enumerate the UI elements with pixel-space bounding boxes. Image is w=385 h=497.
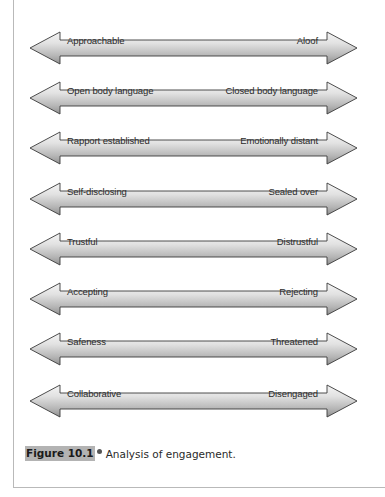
- left-label-safeness: Safeness: [67, 336, 106, 347]
- right-label-distrustful: Distrustful: [277, 236, 318, 247]
- right-label-rejecting: Rejecting: [279, 286, 318, 297]
- bullet-icon: [97, 449, 102, 454]
- left-label-open-body-language: Open body language: [67, 85, 153, 96]
- right-label-emotionally-distant: Emotionally distant: [240, 135, 318, 146]
- left-label-self-disclosing: Self-disclosing: [67, 186, 127, 197]
- right-label-sealed-over: Sealed over: [268, 186, 318, 197]
- left-label-rapport-established: Rapport established: [67, 135, 150, 146]
- left-label-collaborative: Collaborative: [67, 388, 121, 399]
- figure-caption: Figure 10.1 Analysis of engagement.: [25, 446, 236, 461]
- right-label-aloof: Aloof: [297, 35, 318, 46]
- figure-number: Figure 10.1: [25, 446, 95, 461]
- right-label-closed-body-language: Closed body language: [225, 85, 318, 96]
- left-label-approachable: Approachable: [67, 35, 124, 46]
- figure-caption-text: Analysis of engagement.: [106, 448, 236, 460]
- left-label-trustful: Trustful: [67, 236, 98, 247]
- right-label-threatened: Threatened: [270, 336, 318, 347]
- left-label-accepting: Accepting: [67, 286, 108, 297]
- right-label-disengaged: Disengaged: [268, 388, 318, 399]
